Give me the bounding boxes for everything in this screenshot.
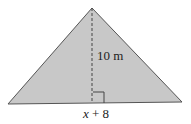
- height-label: 10 m: [97, 48, 123, 64]
- triangle: [8, 8, 182, 104]
- base-label-rest: + 8: [89, 106, 109, 121]
- base-label: x + 8: [83, 106, 109, 122]
